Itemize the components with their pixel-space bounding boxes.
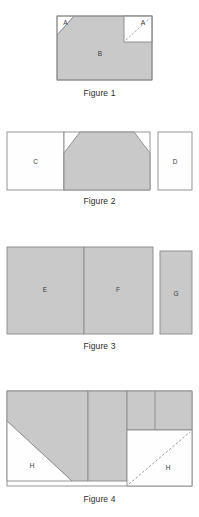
figure-4: H H: [0, 386, 199, 492]
figure-sheet: A A B Figure 1 C D Figure 2: [0, 0, 199, 517]
figure-1: A A B: [0, 10, 199, 88]
figure-3-label-g: G: [173, 290, 178, 297]
figure-2: C D: [0, 126, 199, 194]
figure-4-label-square: H: [166, 464, 171, 471]
figure-2-trapezoid: [64, 132, 150, 190]
figure-2-label-c: C: [33, 158, 38, 165]
figure-1-graphic: A A B: [0, 10, 199, 88]
figure-4-graphic: H H: [0, 386, 199, 492]
figure-3-graphic: E F G: [0, 242, 199, 338]
figure-1-label-body: B: [98, 50, 102, 57]
figure-2-graphic: C D: [0, 126, 199, 194]
figure-1-caption: Figure 1: [0, 88, 199, 98]
figure-4-centre-column: [88, 391, 127, 481]
figure-3: E F G: [0, 242, 199, 338]
figure-1-label-triangle: A: [63, 19, 68, 26]
figure-3-label-f: F: [116, 286, 120, 293]
figure-4-top-right-band: [127, 391, 192, 430]
figure-3-caption: Figure 3: [0, 341, 199, 351]
figure-4-label-triangle: H: [30, 462, 35, 469]
figure-4-caption: Figure 4: [0, 494, 199, 504]
figure-1-label-square: A: [141, 19, 146, 26]
figure-2-label-d: D: [173, 158, 178, 165]
figure-3-label-e: E: [43, 286, 48, 293]
figure-2-caption: Figure 2: [0, 196, 199, 206]
